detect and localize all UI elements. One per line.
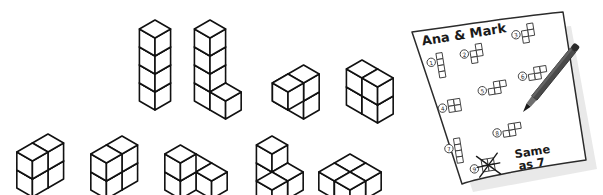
- item-shape-4: [447, 98, 461, 112]
- worksheet-scene: Ana & Mark123456789Sameas 7: [0, 0, 603, 195]
- vertical-tower-4: [139, 20, 170, 110]
